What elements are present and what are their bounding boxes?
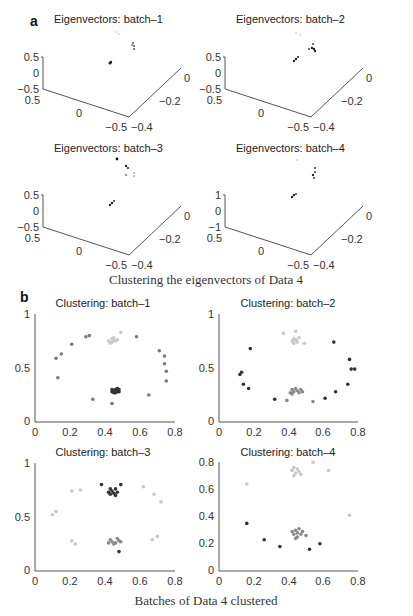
data-points: [54, 331, 168, 406]
data-point: [311, 460, 315, 464]
svg-text:0: 0: [216, 426, 222, 438]
data-point: [290, 392, 294, 396]
svg-text:−0.2: −0.2: [341, 95, 363, 107]
svg-text:−0.5: −0.5: [105, 121, 127, 133]
data-point: [114, 391, 118, 395]
svg-text:Clustering: batch–2: Clustering: batch–2: [241, 297, 336, 309]
data-point: [112, 338, 116, 342]
svg-text:0.2: 0.2: [246, 426, 261, 438]
data-point: [303, 341, 307, 345]
data-point: [107, 541, 111, 545]
svg-text:0.5: 0.5: [15, 511, 30, 523]
data-point: [296, 531, 300, 535]
data-point: [299, 473, 303, 477]
data-point: [304, 534, 308, 538]
data-point: [327, 469, 331, 473]
data-point: [348, 358, 352, 362]
svg-text:0: 0: [33, 205, 39, 217]
data-point: [110, 402, 114, 406]
data-point: [292, 533, 296, 537]
svg-text:0.5: 0.5: [15, 362, 30, 374]
svg-text:0.2: 0.2: [62, 575, 77, 587]
svg-text:0: 0: [258, 245, 264, 257]
svg-text:0.5: 0.5: [24, 189, 39, 201]
svg-text:Clustering: batch–1: Clustering: batch–1: [56, 297, 151, 309]
data-points: [245, 460, 351, 551]
svg-text:0: 0: [32, 575, 38, 587]
svg-text:Eigenvectors: batch–2: Eigenvectors: batch–2: [236, 13, 345, 25]
svg-text:0: 0: [24, 564, 30, 576]
data-point: [163, 354, 167, 358]
data-point: [311, 400, 315, 404]
svg-text:0: 0: [366, 72, 372, 84]
data-point: [114, 494, 118, 498]
data-point: [159, 500, 163, 504]
data-point: [117, 390, 121, 394]
svg-text:0.2: 0.2: [199, 537, 214, 549]
svg-text:−0.2: −0.2: [159, 95, 181, 107]
svg-text:0: 0: [32, 426, 38, 438]
data-point: [323, 396, 327, 400]
y-axis: [129, 68, 181, 117]
cluster-plot-batch-2: Clustering: batch–2 1 0.5 0 0 0.2 0.4 0.…: [199, 297, 366, 438]
data-point: [349, 367, 353, 371]
data-point: [353, 367, 357, 371]
cluster-plot-batch-4: Clustering: batch–4 0.8 0.6 0.4 0.2 0 0 …: [199, 446, 366, 587]
data-point: [346, 382, 350, 386]
panel-b-caption: Batches of Data 4 clustered: [135, 593, 278, 608]
data-point: [240, 371, 244, 375]
data-point: [165, 379, 169, 383]
data-point: [70, 489, 74, 493]
svg-text:−0.2: −0.2: [341, 233, 363, 245]
data-point: [294, 330, 298, 334]
svg-text:−0.5: −0.5: [287, 121, 309, 133]
svg-text:0: 0: [215, 67, 221, 79]
data-point: [318, 542, 322, 546]
data-point: [165, 369, 169, 373]
eigen-plot-batch-4: Eigenvectors: batch–4 1 0 −1 0.5 0 −0.5 …: [207, 142, 372, 271]
data-point: [292, 466, 296, 470]
svg-text:Clustering: batch–3: Clustering: batch–3: [56, 446, 151, 458]
svg-text:0.5: 0.5: [25, 232, 40, 244]
svg-text:0.5: 0.5: [207, 94, 222, 106]
data-point: [54, 510, 58, 514]
data-point: [297, 391, 301, 395]
svg-text:0: 0: [366, 210, 372, 222]
svg-text:0.4: 0.4: [199, 510, 214, 522]
eigen-plot-batch-1: Eigenvectors: batch–1 0.5 0 −0.5 0.5 0 −…: [17, 13, 190, 133]
data-point: [79, 488, 83, 492]
data-point: [142, 485, 146, 489]
panel-a-caption: Clustering the eigenvectors of Data 4: [109, 272, 303, 287]
data-point: [109, 493, 113, 497]
svg-text:0: 0: [33, 67, 39, 79]
svg-text:0.5: 0.5: [207, 232, 222, 244]
data-point: [116, 338, 120, 342]
data-point: [273, 398, 277, 402]
svg-text:1: 1: [24, 308, 30, 320]
svg-text:0.8: 0.8: [167, 426, 182, 438]
svg-text:1: 1: [215, 189, 221, 201]
data-point: [147, 393, 151, 397]
data-point: [247, 387, 251, 391]
panel-b-letter: b: [20, 289, 29, 305]
svg-text:1: 1: [24, 457, 30, 469]
data-point: [116, 490, 120, 494]
panel-a-letter: a: [30, 13, 38, 29]
svg-text:0: 0: [208, 415, 214, 427]
data-point: [117, 550, 121, 554]
data-point: [158, 349, 162, 353]
svg-text:−0.2: −0.2: [159, 233, 181, 245]
svg-text:0.5: 0.5: [206, 51, 221, 63]
cluster-plot-batch-1: Clustering: batch–1 1 0.5 0 0 0.2 0.4 0.…: [15, 297, 183, 438]
data-point: [70, 342, 74, 346]
svg-text:0: 0: [24, 415, 30, 427]
svg-text:0: 0: [215, 205, 221, 217]
data-point: [88, 334, 92, 338]
svg-text:1: 1: [208, 308, 214, 320]
data-point: [119, 483, 123, 487]
svg-text:−0.5: −0.5: [105, 259, 127, 271]
data-point: [245, 482, 249, 486]
data-point: [119, 331, 123, 335]
data-point: [156, 535, 160, 539]
data-point: [135, 335, 139, 339]
